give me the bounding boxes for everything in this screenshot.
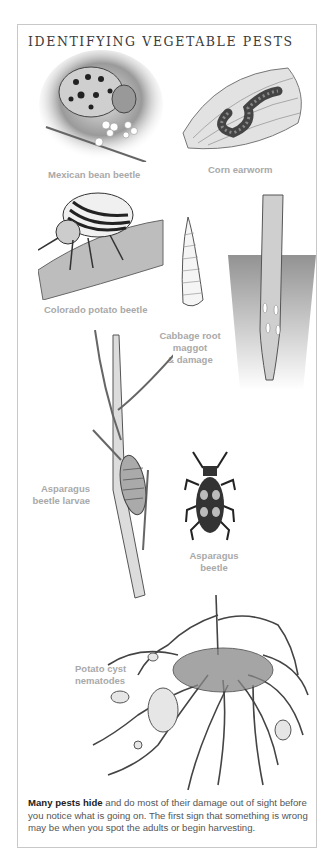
asparagus-beetle-illustration <box>181 450 241 545</box>
potato-cyst-nematodes-illustration <box>78 595 313 790</box>
caption-bold-lead: Many pests hide <box>28 797 103 808</box>
colorado-potato-beetle-illustration <box>38 190 168 300</box>
cabbage-root-maggot-illustration <box>178 215 208 310</box>
label-corn-earworm: Corn earworm <box>208 164 272 176</box>
asparagus-beetle-larvae-illustration <box>73 330 173 600</box>
label-potato-cyst-nematodes: Potato cyst nematodes <box>75 663 126 687</box>
label-colorado-potato-beetle: Colorado potato beetle <box>44 304 147 316</box>
label-mexican-bean-beetle: Mexican bean beetle <box>48 169 140 181</box>
pest-identification-panel: IDENTIFYING VEGETABLE PESTS Mexican bean… <box>17 24 317 848</box>
caption-paragraph: Many pests hide and do most of their dam… <box>28 797 310 835</box>
mexican-bean-beetle-illustration <box>36 47 166 162</box>
label-asparagus-beetle: Asparagus beetle <box>188 550 240 574</box>
label-asparagus-beetle-larvae: Asparagus beetle larvae <box>28 483 90 507</box>
root-damage-illustration <box>228 190 318 390</box>
corn-earworm-illustration <box>178 53 313 153</box>
